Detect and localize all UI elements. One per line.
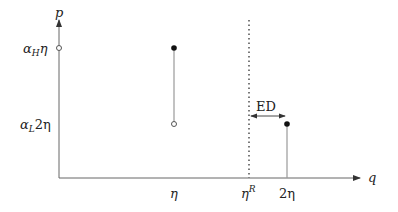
x-axis-label: q xyxy=(368,170,376,185)
filled-dot-2eta xyxy=(284,121,290,127)
x-tick-2eta: 2η xyxy=(279,186,295,201)
y-tick-alpha-l-2eta: αL2η xyxy=(20,117,51,134)
y-axis-open-dot xyxy=(57,46,62,51)
y-tick-alpha-h-eta: αHη xyxy=(23,41,48,58)
y-axis-label: p xyxy=(55,5,64,20)
x-tick-eta: η xyxy=(170,186,178,201)
open-dot-eta-low xyxy=(172,122,177,127)
price-quantity-diagram: p q αHη αL2η ED η ηR 2η xyxy=(0,0,398,212)
ed-label: ED xyxy=(256,99,276,114)
x-tick-eta-r: ηR xyxy=(241,184,256,201)
filled-dot-eta-high xyxy=(171,45,177,51)
